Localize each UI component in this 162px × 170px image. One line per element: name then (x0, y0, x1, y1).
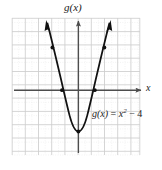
equation-annotation: g(x) = x2 − 4 (92, 109, 142, 119)
parabola-plot (0, 0, 162, 170)
point-vertex (77, 130, 81, 134)
plot-background (12, 18, 140, 155)
y-axis-label: g(x) (64, 2, 82, 13)
point-left-root (60, 88, 64, 92)
equation-tail: − 4 (127, 108, 143, 119)
point-left-branch (51, 46, 55, 50)
equation-equals: = (108, 108, 119, 119)
equation-function: g(x) (92, 108, 108, 119)
graph-figure: g(x) x g(x) = x2 − 4 (0, 0, 162, 170)
point-right-branch (103, 46, 107, 50)
x-axis-label: x (146, 83, 150, 93)
point-right-root (93, 88, 97, 92)
